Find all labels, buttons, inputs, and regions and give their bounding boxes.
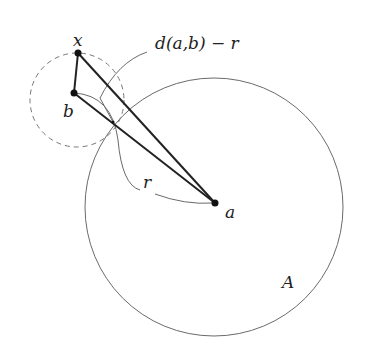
label-x: x xyxy=(73,30,83,50)
point-b xyxy=(71,90,78,97)
circle-A xyxy=(85,78,343,336)
diagram-canvas: x b a r A d(a,b) − r xyxy=(0,0,365,357)
label-r: r xyxy=(143,172,152,192)
label-a: a xyxy=(225,202,235,222)
intersection-point xyxy=(112,121,115,124)
label-b: b xyxy=(63,101,74,121)
label-A: A xyxy=(280,272,294,292)
segment-x-b xyxy=(74,53,78,93)
point-x xyxy=(75,50,82,57)
point-a xyxy=(212,200,219,207)
label-distance: d(a,b) − r xyxy=(155,33,240,53)
distance-arc xyxy=(100,52,147,98)
radius-arc xyxy=(74,93,140,190)
